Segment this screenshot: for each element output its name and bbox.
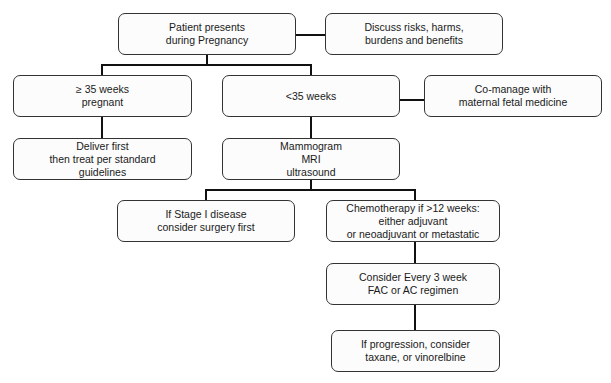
node-text: ultrasound <box>286 166 335 179</box>
connector-lt35-imaging <box>310 117 312 138</box>
node-text: If progression, consider <box>361 338 470 351</box>
node-text: ≥ 35 weeks <box>76 83 129 96</box>
node-text: during Pregnancy <box>166 34 248 47</box>
node-imaging: Mammogram MRI ultrasound <box>222 138 400 180</box>
node-text: Deliver first <box>76 140 129 153</box>
connector-ge35-deliver <box>101 117 103 138</box>
node-text: MRI <box>301 153 320 166</box>
node-text: Patient presents <box>169 21 245 34</box>
node-text: If Stage I disease <box>165 208 246 221</box>
node-text: maternal fetal medicine <box>459 96 568 109</box>
node-progression: If progression, consider taxane, or vino… <box>331 330 500 372</box>
connector-to-ge35 <box>101 64 103 75</box>
node-text: guidelines <box>79 166 126 179</box>
node-text: Mammogram <box>280 140 342 153</box>
node-co-manage: Co-manage with maternal fetal medicine <box>424 75 602 117</box>
node-text: taxane, or vinorelbine <box>365 351 465 364</box>
connector-to-chemo <box>414 189 416 200</box>
node-text: either adjuvant <box>379 215 448 228</box>
node-text: <35 weeks <box>286 90 337 103</box>
node-text: then treat per standard <box>49 153 155 166</box>
node-patient-presents: Patient presents during Pregnancy <box>118 13 296 55</box>
connector-branch-treatment <box>205 189 416 191</box>
node-text: pregnant <box>82 96 123 109</box>
node-text: Co-manage with <box>475 83 551 96</box>
node-text: Chemotherapy if >12 weeks: <box>346 202 479 215</box>
connector-chemo-regimen <box>414 242 416 263</box>
node-regimen: Consider Every 3 week FAC or AC regimen <box>326 263 500 305</box>
node-chemotherapy: Chemotherapy if >12 weeks: either adjuva… <box>326 200 500 242</box>
node-text: consider surgery first <box>157 221 254 234</box>
connector-branch-gestation <box>101 64 312 66</box>
node-text: Discuss risks, harms, <box>364 21 463 34</box>
node-text: burdens and benefits <box>365 34 463 47</box>
connector-to-stage1 <box>205 189 207 200</box>
node-deliver-first: Deliver first then treat per standard gu… <box>13 138 192 180</box>
connector-to-lt35 <box>310 64 312 75</box>
connector-start-discuss <box>296 34 325 36</box>
node-stage-1-surgery: If Stage I disease consider surgery firs… <box>117 200 295 242</box>
connector-lt35-comanage <box>400 99 424 101</box>
node-lt-35-weeks: <35 weeks <box>222 75 400 117</box>
node-text: FAC or AC regimen <box>368 284 458 297</box>
node-ge-35-weeks: ≥ 35 weeks pregnant <box>13 75 192 117</box>
node-text: or neoadjuvant or metastatic <box>347 228 480 241</box>
node-text: Consider Every 3 week <box>359 271 467 284</box>
connector-regimen-progression <box>414 305 416 330</box>
node-discuss-risks: Discuss risks, harms, burdens and benefi… <box>325 13 503 55</box>
